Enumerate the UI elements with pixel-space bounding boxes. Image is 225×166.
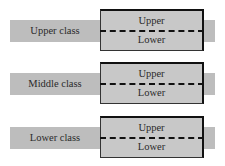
class-label: Middle class	[10, 73, 100, 95]
subdivision-box: Upper Lower	[100, 116, 204, 158]
subdivision-box: Upper Lower	[100, 9, 204, 51]
upper-subdivision-label: Upper	[101, 118, 202, 138]
class-row-middle: Middle class Upper Lower	[0, 62, 225, 106]
class-label: Lower class	[10, 127, 100, 149]
subdivision-box: Upper Lower	[100, 62, 204, 104]
class-row-upper: Upper class Upper Lower	[0, 9, 225, 53]
lower-subdivision-label: Lower	[101, 83, 202, 103]
class-label: Upper class	[10, 20, 100, 42]
class-row-lower: Lower class Upper Lower	[0, 116, 225, 160]
upper-subdivision-label: Upper	[101, 11, 202, 31]
lower-subdivision-label: Lower	[101, 137, 202, 157]
lower-subdivision-label: Lower	[101, 30, 202, 50]
upper-subdivision-label: Upper	[101, 64, 202, 84]
